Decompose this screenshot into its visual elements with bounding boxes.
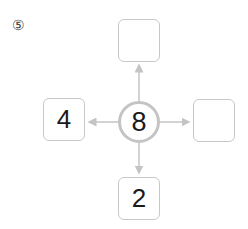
top-answer-box[interactable] xyxy=(118,19,160,62)
right-answer-box[interactable] xyxy=(193,99,235,142)
center-number-circle: 8 xyxy=(118,101,160,143)
left-number-box: 4 xyxy=(43,98,85,141)
bottom-number-box: 2 xyxy=(118,177,160,220)
left-box-value: 4 xyxy=(57,104,71,135)
bottom-box-value: 2 xyxy=(132,183,146,214)
center-value: 8 xyxy=(131,107,146,138)
